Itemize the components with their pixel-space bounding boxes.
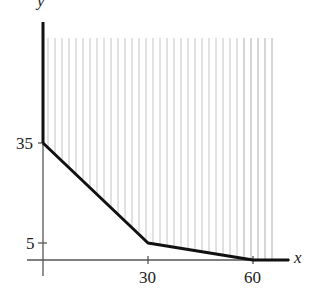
x-axis-label: x	[293, 248, 302, 267]
boundary-line	[43, 143, 289, 260]
feasible-region-chart: 35 5 30 60 x y	[0, 0, 317, 301]
hatch-shading	[48, 38, 272, 260]
x-tick-label-30: 30	[139, 268, 156, 287]
y-tick-label-35: 35	[16, 134, 33, 153]
y-axis-label: y	[35, 0, 45, 10]
y-tick-label-5: 5	[26, 234, 35, 253]
x-tick-label-60: 60	[244, 268, 261, 287]
